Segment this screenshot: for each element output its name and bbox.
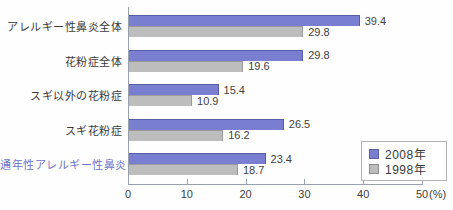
bar-line: 15.4 (128, 84, 245, 95)
bar-2008年 (128, 153, 266, 164)
bar-line: 29.8 (128, 26, 386, 37)
legend-swatch (369, 164, 379, 174)
bar-line: 18.7 (128, 164, 292, 175)
tick-mark (187, 179, 188, 184)
bar-1998年 (128, 164, 238, 175)
bar-group: 花粉症全体29.819.6 (0, 50, 453, 72)
value-label: 16.2 (228, 129, 249, 141)
category-label: 花粉症全体 (0, 53, 128, 69)
value-label: 18.7 (243, 164, 264, 176)
bar-line: 29.8 (128, 50, 330, 61)
tick-label: 30 (298, 188, 310, 200)
category-label: スギ花粉症 (0, 122, 128, 138)
y-axis-line (128, 7, 129, 184)
bar-stack: 39.429.8 (128, 15, 386, 37)
bar-line: 16.2 (128, 130, 310, 141)
bar-1998年 (128, 61, 243, 72)
bar-1998年 (128, 130, 223, 141)
bar-line: 10.9 (128, 95, 245, 106)
legend: 2008年1998年 (361, 141, 447, 181)
tick-mark (128, 179, 129, 184)
value-label: 15.4 (224, 84, 245, 96)
axis-unit-label: (%) (429, 188, 446, 200)
tick-label: 10 (181, 188, 193, 200)
allergy-prevalence-bar-chart: アレルギー性鼻炎全体39.429.8花粉症全体29.819.6スギ以外の花粉症1… (0, 0, 453, 210)
value-label: 29.8 (308, 26, 329, 38)
legend-item: 2008年 (369, 146, 439, 161)
legend-item: 1998年 (369, 161, 439, 176)
value-label: 39.4 (365, 15, 386, 27)
tick-label: 20 (239, 188, 251, 200)
bar-group: スギ花粉症26.516.2 (0, 119, 453, 141)
bar-group: スギ以外の花粉症15.410.9 (0, 84, 453, 106)
x-axis-line (128, 184, 423, 185)
category-label: アレルギー性鼻炎全体 (0, 18, 128, 34)
bar-line: 26.5 (128, 119, 310, 130)
category-label: スギ以外の花粉症 (0, 87, 128, 103)
bar-2008年 (128, 15, 360, 26)
tick-mark (304, 179, 305, 184)
bar-2008年 (128, 84, 219, 95)
bar-line: 39.4 (128, 15, 386, 26)
bar-1998年 (128, 95, 192, 106)
legend-swatch (369, 149, 379, 159)
bar-2008年 (128, 50, 303, 61)
value-label: 19.6 (248, 60, 269, 72)
bar-line: 19.6 (128, 61, 330, 72)
bar-stack: 26.516.2 (128, 119, 310, 141)
bar-group: アレルギー性鼻炎全体39.429.8 (0, 15, 453, 37)
bar-stack: 15.410.9 (128, 84, 245, 106)
value-label: 29.8 (308, 49, 329, 61)
tick-label: 0 (125, 188, 131, 200)
value-label: 23.4 (271, 153, 292, 165)
bar-1998年 (128, 26, 303, 37)
legend-label: 1998年 (385, 160, 426, 177)
tick-label: 40 (357, 188, 369, 200)
value-label: 26.5 (289, 118, 310, 130)
bar-stack: 23.418.7 (128, 153, 292, 175)
value-label: 10.9 (197, 95, 218, 107)
bar-2008年 (128, 119, 284, 130)
category-label: 通年性アレルギー性鼻炎 (0, 156, 128, 172)
tick-mark (246, 179, 247, 184)
bar-stack: 29.819.6 (128, 50, 330, 72)
bar-line: 23.4 (128, 153, 292, 164)
tick-label: 50 (416, 188, 428, 200)
